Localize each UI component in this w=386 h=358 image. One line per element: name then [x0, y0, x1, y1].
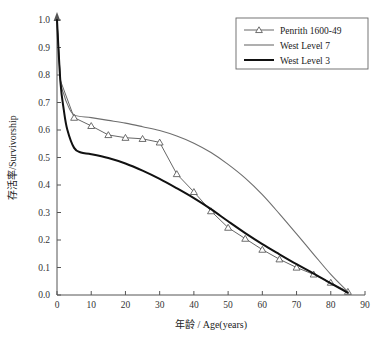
x-tick-label: 30	[155, 300, 165, 310]
x-tick-label: 50	[223, 300, 233, 310]
y-tick-label: 1.0	[38, 15, 50, 25]
x-tick-label: 80	[326, 300, 336, 310]
chart-legend: Penrith 1600-49West Level 7West Level 3	[236, 18, 368, 69]
data-point-marker	[173, 171, 180, 177]
x-tick-label: 70	[292, 300, 302, 310]
data-point-marker	[242, 235, 249, 241]
data-point-marker	[259, 246, 266, 252]
x-tick-label: 0	[55, 300, 60, 310]
x-tick-label: 40	[189, 300, 199, 310]
x-axis-title: 年龄 / Age(years)	[175, 318, 247, 331]
y-tick-label: 0.2	[38, 235, 50, 245]
chart-canvas: 01020304050607080900.00.10.20.30.40.50.6…	[0, 0, 386, 358]
legend-label: West Level 3	[280, 56, 330, 66]
y-tick-label: 0.1	[38, 263, 50, 273]
y-tick-label: 0.9	[38, 43, 50, 53]
y-tick-label: 0.7	[38, 98, 50, 108]
x-tick-label: 20	[121, 300, 131, 310]
legend-label: West Level 7	[280, 41, 330, 51]
y-tick-label: 0.3	[38, 208, 50, 218]
y-tick-label: 0.4	[38, 180, 50, 190]
x-tick-label: 60	[258, 300, 268, 310]
y-tick-label: 0.8	[38, 70, 50, 80]
data-point-marker	[88, 123, 95, 129]
data-point-marker	[105, 132, 112, 138]
y-tick-label: 0.6	[38, 125, 50, 135]
y-tick-label: 0.5	[38, 153, 50, 163]
x-tick-label: 10	[86, 300, 96, 310]
y-axis-title: 存活率/Survivorship	[6, 115, 18, 199]
legend-label: Penrith 1600-49	[280, 26, 342, 36]
survivorship-chart: 01020304050607080900.00.10.20.30.40.50.6…	[0, 0, 386, 358]
x-tick-label: 90	[360, 300, 370, 310]
y-tick-label: 0.0	[38, 290, 50, 300]
